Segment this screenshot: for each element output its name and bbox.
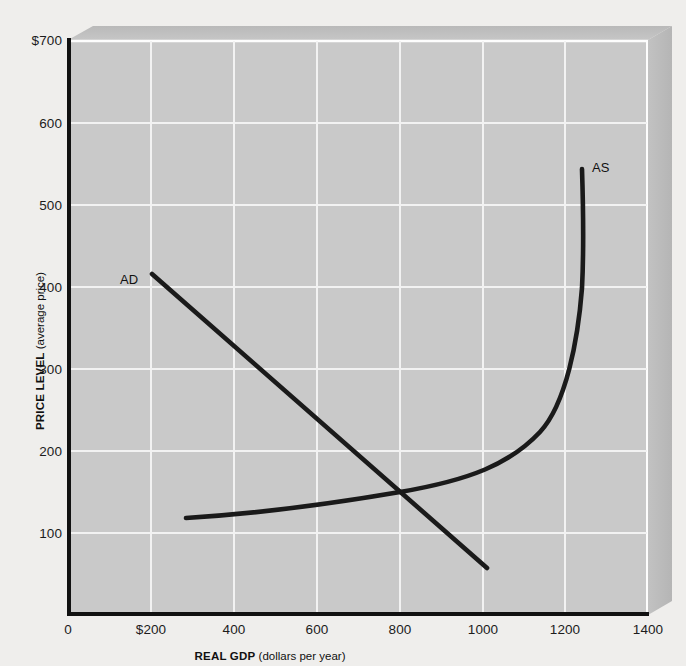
x-tick-0: 0 (38, 622, 98, 637)
x-tick-600: 600 (287, 622, 347, 637)
x-tick-1200: 1200 (535, 622, 595, 637)
y-axis-title-unit: (average price) (34, 272, 46, 349)
curve-label-ad: AD (120, 272, 138, 287)
plot-area (68, 40, 648, 615)
chart-figure: $700 600 500 400 300 200 100 0 $200 400 … (0, 0, 686, 666)
y-tick-300: 300 (0, 362, 62, 377)
y-axis-title: PRICE LEVEL (average price) (34, 221, 46, 481)
y-tick-200: 200 (0, 444, 62, 459)
x-axis-title-unit: (dollars per year) (259, 650, 346, 662)
y-tick-500: 500 (0, 198, 62, 213)
x-tick-800: 800 (370, 622, 430, 637)
x-axis-title-main: REAL GDP (195, 650, 256, 662)
y-tick-600: 600 (0, 116, 62, 131)
chart-canvas (0, 0, 686, 666)
y-tick-700: $700 (0, 33, 62, 48)
x-tick-400: 400 (204, 622, 264, 637)
x-axis-title: REAL GDP (dollars per year) (0, 650, 540, 662)
x-tick-200: $200 (121, 622, 181, 637)
x-tick-1000: 1000 (453, 622, 513, 637)
y-tick-100: 100 (0, 526, 62, 541)
plot-top-bevel (68, 26, 672, 40)
y-axis-title-main: PRICE LEVEL (34, 352, 46, 430)
curve-label-as: AS (592, 160, 609, 175)
y-tick-400: 400 (0, 280, 62, 295)
x-tick-1400: 1400 (618, 622, 678, 637)
plot-right-bevel (648, 26, 672, 615)
